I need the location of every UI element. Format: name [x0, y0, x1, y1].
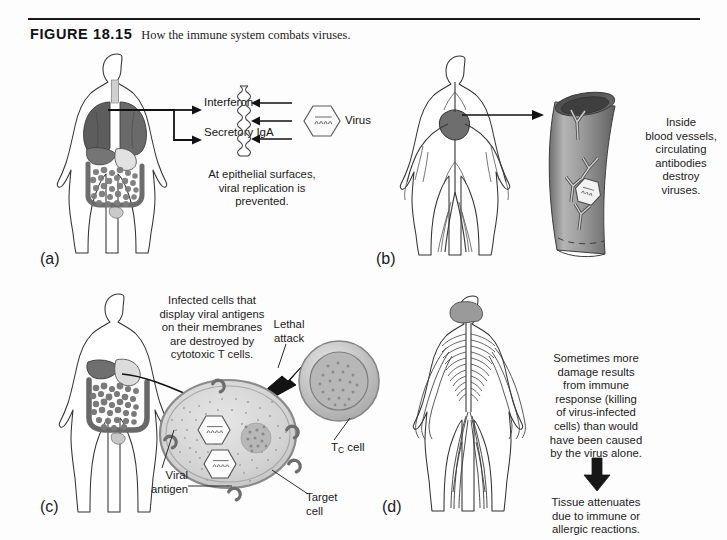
panel-b-caption-line-3: circulating	[640, 143, 722, 157]
panel-d-caption: Sometimes more damage results from immun…	[526, 352, 666, 461]
panel-d-body-diagram	[412, 292, 534, 514]
target-cell-line-1: Target	[306, 491, 366, 505]
panel-c-caption-line-5: cytotoxic T cells.	[138, 348, 286, 362]
panel-d-outcome-line-1: Tissue attenuates	[522, 496, 670, 510]
panel-d-caption-line-2: damage results	[526, 366, 666, 380]
panel-d-caption-line-5: of virus-infected	[526, 406, 666, 420]
target-cell-nucleus	[241, 423, 271, 453]
header-divider	[28, 18, 700, 20]
panel-a-caption-line-3: prevented.	[168, 195, 356, 209]
panel-d-letter: (d)	[382, 498, 402, 516]
viral-antigen-label: Viral antigen	[126, 469, 188, 496]
panel-d-down-arrow	[582, 458, 612, 492]
panel-b-arrow	[462, 108, 548, 122]
tc-cell-label: TC cell	[331, 441, 365, 455]
target-cell-line-2: cell	[306, 505, 366, 519]
target-cell-label: Target cell	[306, 491, 366, 518]
panel-b-letter: (b)	[376, 250, 396, 268]
tc-cell-label-main: T	[331, 441, 338, 453]
panel-a-source-line	[108, 103, 148, 117]
panel-d-caption-line-4: response (killing	[526, 393, 666, 407]
viral-antigen-line-2: antigen	[126, 483, 188, 497]
panel-d-outcome: Tissue attenuates due to immune or aller…	[522, 496, 670, 537]
figure-number: FIGURE 18.15	[30, 26, 132, 42]
panel-b-body-diagram	[398, 52, 523, 257]
tc-cell-label-tail: cell	[344, 441, 364, 453]
lethal-attack-line-1: Lethal	[258, 318, 320, 332]
panel-b-caption-line-5: destroy	[640, 170, 722, 184]
virus-particle-a	[304, 106, 340, 136]
panel-d-outcome-line-3: allergic reactions.	[522, 523, 670, 537]
panel-b-caption-line-1: Inside	[640, 116, 722, 130]
label-virus-a: Virus	[345, 114, 371, 126]
figure-title: FIGURE 18.15 How the immune system comba…	[30, 26, 630, 46]
panel-c-tc-cell	[296, 338, 382, 424]
viral-antigen-leader-line-upper	[156, 430, 182, 472]
panel-d-caption-line-7: have been caused	[526, 434, 666, 448]
figure-18-15: FIGURE 18.15 How the immune system comba…	[0, 0, 727, 540]
panel-a-caption-line-2: viral replication is	[168, 182, 356, 196]
panel-c-caption-line-1: Infected cells that	[138, 294, 286, 308]
figure-caption: How the immune system combats viruses.	[141, 28, 350, 43]
panel-b-caption-line-4: antibodies	[640, 157, 722, 171]
panel-b-caption-line-2: blood vessels,	[640, 130, 722, 144]
panel-c-letter: (c)	[40, 498, 59, 516]
panel-d-caption-line-6: cells) than would	[526, 420, 666, 434]
viral-antigen-leader-line-lower	[188, 481, 234, 491]
panel-d-outcome-line-2: due to immune or	[522, 510, 670, 524]
panel-a-caption-line-1: At epithelial surfaces,	[168, 168, 356, 182]
panel-b-caption: Inside blood vessels, circulating antibo…	[640, 116, 722, 198]
panel-a-caption: At epithelial surfaces, viral replicatio…	[168, 168, 356, 209]
panel-b-blood-vessel	[541, 82, 637, 260]
panel-d-caption-line-1: Sometimes more	[526, 352, 666, 366]
panel-d-caption-line-3: from immune	[526, 379, 666, 393]
panel-b-caption-line-6: viruses.	[640, 184, 722, 198]
